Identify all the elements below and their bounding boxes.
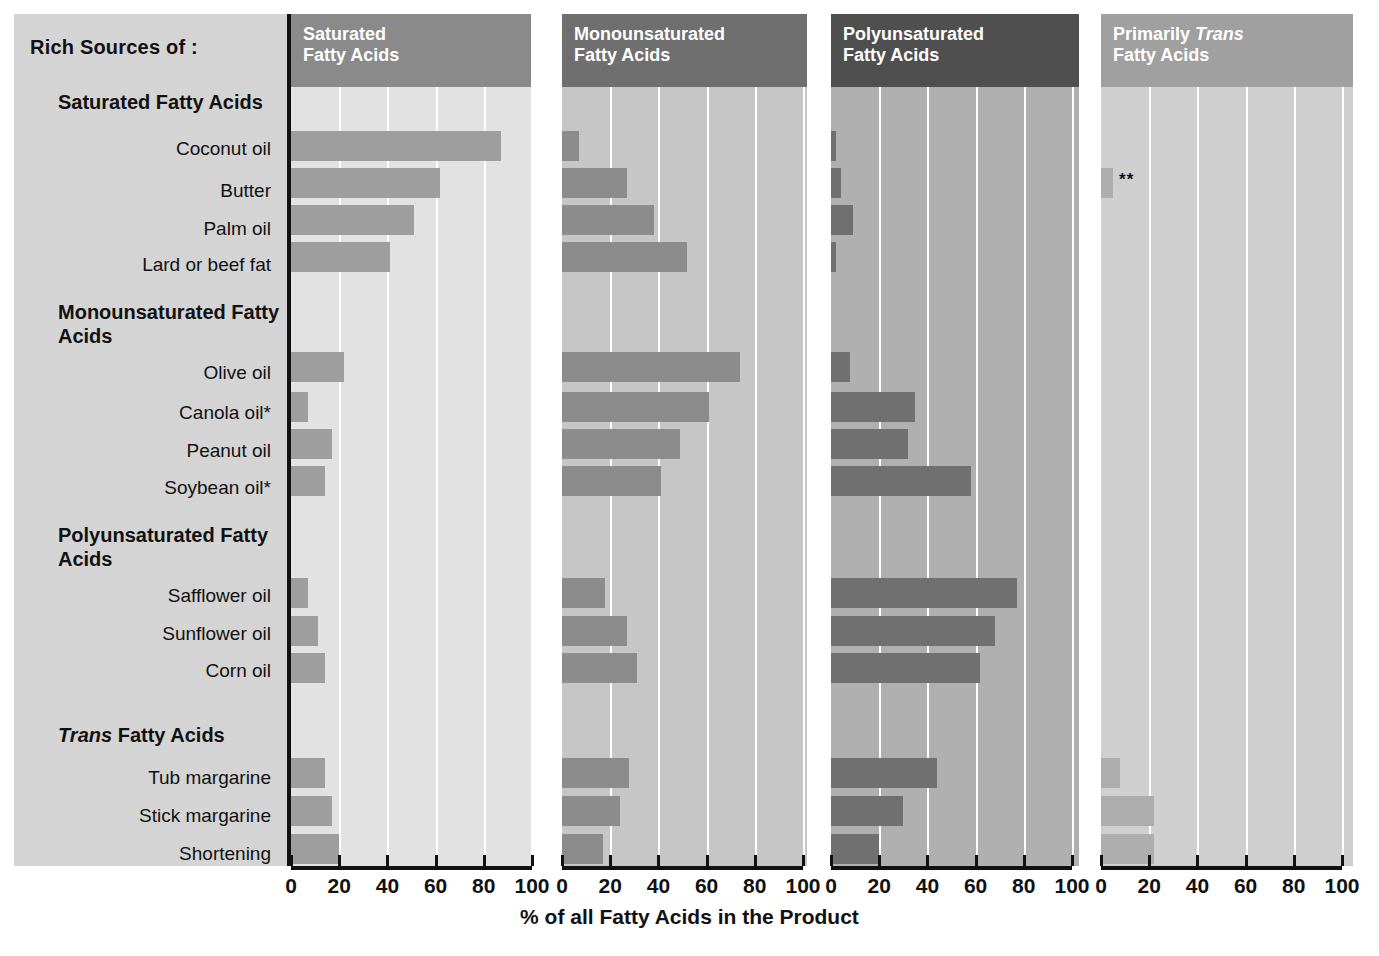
plot-area-monounsaturated bbox=[562, 87, 807, 866]
tick-label-monounsaturated-60: 60 bbox=[695, 874, 718, 898]
tick-label-saturated-40: 40 bbox=[376, 874, 399, 898]
tick-label-trans-0: 0 bbox=[1095, 874, 1107, 898]
tick-label-saturated-0: 0 bbox=[285, 874, 297, 898]
bar-polyunsaturated-shortening bbox=[831, 834, 879, 864]
bar-saturated-safflower-oil bbox=[291, 578, 308, 608]
gridline-100 bbox=[1072, 87, 1074, 866]
tick-label-monounsaturated-0: 0 bbox=[556, 874, 568, 898]
axis-line-polyunsaturated bbox=[831, 866, 1072, 870]
tick-label-trans-40: 40 bbox=[1186, 874, 1209, 898]
plot-area-trans bbox=[1101, 87, 1353, 866]
bar-trans-shortening bbox=[1101, 834, 1154, 864]
row-label-safflower-oil: Safflower oil bbox=[168, 585, 271, 607]
gridline-40 bbox=[1197, 87, 1199, 866]
tick-monounsaturated-80 bbox=[754, 855, 757, 866]
gridline-60 bbox=[976, 87, 978, 866]
annotation-double-asterisk: ** bbox=[1119, 170, 1134, 190]
bar-monounsaturated-sunflower-oil bbox=[562, 616, 627, 646]
bar-monounsaturated-canola-oil bbox=[562, 392, 709, 422]
panel-header-trans: Primarily TransFatty Acids bbox=[1101, 14, 1353, 87]
plot-area-polyunsaturated bbox=[831, 87, 1079, 866]
tick-saturated-0 bbox=[290, 855, 293, 866]
tick-saturated-60 bbox=[435, 855, 438, 866]
tick-label-saturated-60: 60 bbox=[424, 874, 447, 898]
bar-monounsaturated-butter bbox=[562, 168, 627, 198]
bar-saturated-lard-or-beef-fat bbox=[291, 242, 390, 272]
tick-label-saturated-80: 80 bbox=[472, 874, 495, 898]
tick-label-polyunsaturated-60: 60 bbox=[964, 874, 987, 898]
row-label-corn-oil: Corn oil bbox=[206, 660, 271, 682]
tick-trans-100 bbox=[1341, 855, 1344, 866]
tick-polyunsaturated-20 bbox=[878, 855, 881, 866]
bar-monounsaturated-tub-margarine bbox=[562, 758, 629, 788]
trans-italic-word: Trans bbox=[58, 724, 112, 746]
tick-label-trans-80: 80 bbox=[1282, 874, 1305, 898]
tick-monounsaturated-100 bbox=[802, 855, 805, 866]
tick-polyunsaturated-80 bbox=[1023, 855, 1026, 866]
tick-monounsaturated-20 bbox=[609, 855, 612, 866]
row-label-lard-or-beef-fat: Lard or beef fat bbox=[142, 254, 271, 276]
axis-line-monounsaturated bbox=[562, 866, 803, 870]
tick-label-trans-20: 20 bbox=[1138, 874, 1161, 898]
panel-title-line1: Polyunsaturated bbox=[843, 24, 984, 44]
tick-label-polyunsaturated-20: 20 bbox=[868, 874, 891, 898]
bar-polyunsaturated-lard-or-beef-fat bbox=[831, 242, 836, 272]
bar-saturated-coconut-oil bbox=[291, 131, 501, 161]
fatty-acid-chart: Rich Sources of : Saturated Fatty Acids … bbox=[0, 0, 1379, 956]
panel-title-line1: Saturated bbox=[303, 24, 386, 44]
row-label-tub-margarine: Tub margarine bbox=[148, 767, 271, 789]
group-heading-trans: Trans Fatty Acids bbox=[58, 723, 283, 747]
bar-trans-tub-margarine bbox=[1101, 758, 1120, 788]
bar-monounsaturated-shortening bbox=[562, 834, 603, 864]
tick-label-polyunsaturated-40: 40 bbox=[916, 874, 939, 898]
bar-polyunsaturated-peanut-oil bbox=[831, 429, 908, 459]
bar-polyunsaturated-canola-oil bbox=[831, 392, 915, 422]
bar-monounsaturated-safflower-oil bbox=[562, 578, 605, 608]
tick-saturated-80 bbox=[483, 855, 486, 866]
tick-saturated-40 bbox=[386, 855, 389, 866]
tick-label-monounsaturated-40: 40 bbox=[647, 874, 670, 898]
panel-header-polyunsaturated: PolyunsaturatedFatty Acids bbox=[831, 14, 1079, 87]
gridline-60 bbox=[436, 87, 438, 866]
bar-polyunsaturated-sunflower-oil bbox=[831, 616, 995, 646]
tick-polyunsaturated-100 bbox=[1071, 855, 1074, 866]
gridline-80 bbox=[1024, 87, 1026, 866]
tick-label-trans-100: 100 bbox=[1324, 874, 1359, 898]
tick-saturated-20 bbox=[338, 855, 341, 866]
bar-trans-stick-margarine bbox=[1101, 796, 1154, 826]
bar-saturated-peanut-oil bbox=[291, 429, 332, 459]
bar-saturated-soybean-oil bbox=[291, 466, 325, 496]
bar-trans-butter bbox=[1101, 168, 1113, 198]
gridline-80 bbox=[484, 87, 486, 866]
panel-title-line2: Fatty Acids bbox=[843, 45, 939, 65]
bar-saturated-tub-margarine bbox=[291, 758, 325, 788]
bar-saturated-butter bbox=[291, 168, 440, 198]
tick-monounsaturated-0 bbox=[561, 855, 564, 866]
gridline-60 bbox=[707, 87, 709, 866]
bar-monounsaturated-olive-oil bbox=[562, 352, 740, 382]
bar-saturated-stick-margarine bbox=[291, 796, 332, 826]
group-heading-monounsaturated: Monounsaturated Fatty Acids bbox=[58, 300, 283, 348]
row-label-shortening: Shortening bbox=[179, 843, 271, 865]
row-label-canola-oil: Canola oil* bbox=[179, 402, 271, 424]
bar-saturated-sunflower-oil bbox=[291, 616, 318, 646]
gridline-40 bbox=[387, 87, 389, 866]
tick-monounsaturated-40 bbox=[657, 855, 660, 866]
bar-monounsaturated-coconut-oil bbox=[562, 131, 579, 161]
row-label-coconut-oil: Coconut oil bbox=[176, 138, 271, 160]
tick-polyunsaturated-40 bbox=[926, 855, 929, 866]
bar-polyunsaturated-coconut-oil bbox=[831, 131, 836, 161]
rich-sources-title: Rich Sources of : bbox=[30, 36, 198, 59]
bar-saturated-canola-oil bbox=[291, 392, 308, 422]
tick-label-monounsaturated-100: 100 bbox=[785, 874, 820, 898]
panel-title-line1: Monounsaturated bbox=[574, 24, 725, 44]
bar-saturated-corn-oil bbox=[291, 653, 325, 683]
gridline-80 bbox=[755, 87, 757, 866]
tick-label-polyunsaturated-80: 80 bbox=[1012, 874, 1035, 898]
bar-polyunsaturated-safflower-oil bbox=[831, 578, 1017, 608]
label-column: Rich Sources of : Saturated Fatty Acids … bbox=[14, 14, 287, 866]
tick-label-saturated-100: 100 bbox=[514, 874, 549, 898]
bar-saturated-palm-oil bbox=[291, 205, 414, 235]
panel-header-saturated: SaturatedFatty Acids bbox=[291, 14, 531, 87]
bar-polyunsaturated-palm-oil bbox=[831, 205, 853, 235]
